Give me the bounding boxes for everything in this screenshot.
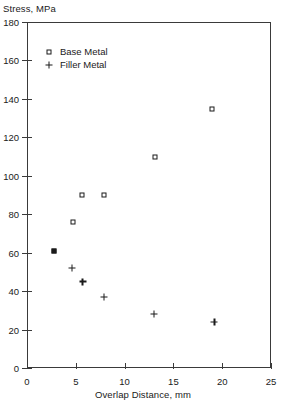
x-tick-label: 20 — [217, 376, 228, 387]
data-point-square — [210, 106, 215, 111]
y-tick-label: 20 — [8, 324, 19, 335]
x-tick-label: 25 — [266, 376, 277, 387]
legend-label: Filler Metal — [60, 58, 106, 71]
data-point-square — [152, 154, 157, 159]
data-point-plus — [79, 278, 86, 285]
legend-label: Base Metal — [60, 45, 108, 58]
x-tick-label: 0 — [24, 376, 29, 387]
y-tick-label: 60 — [8, 247, 19, 258]
y-tick-label: 160 — [3, 55, 19, 66]
x-tick-label: 15 — [168, 376, 179, 387]
y-tick-inner — [27, 22, 32, 23]
x-tick — [271, 363, 272, 369]
data-point-plus — [211, 318, 218, 325]
y-tick-label: 120 — [3, 132, 19, 143]
y-tick-inner — [27, 214, 32, 215]
y-tick-label: 0 — [14, 363, 19, 374]
legend-item-filler-metal: Filler Metal — [44, 58, 108, 71]
y-tick-label: 140 — [3, 93, 19, 104]
data-point-square — [70, 219, 75, 224]
y-tick-inner — [27, 330, 32, 331]
y-tick-inner — [27, 291, 32, 292]
y-tick-label: 100 — [3, 170, 19, 181]
data-point-square — [79, 193, 84, 198]
x-tick-label: 10 — [119, 376, 130, 387]
y-tick-inner — [27, 137, 32, 138]
chart-legend: Base Metal Filler Metal — [44, 45, 108, 71]
x-tick — [222, 363, 223, 369]
y-tick-inner — [27, 60, 32, 61]
y-tick-label: 180 — [3, 17, 19, 28]
data-point-square — [52, 248, 57, 253]
y-tick-label: 40 — [8, 286, 19, 297]
square-marker-icon — [44, 45, 60, 58]
x-tick — [173, 363, 174, 369]
y-tick-inner — [27, 99, 32, 100]
y-axis-title: Stress, MPa — [3, 3, 56, 14]
data-point-square — [102, 193, 107, 198]
x-tick — [27, 363, 28, 369]
y-tick-inner — [27, 253, 32, 254]
y-tick-inner — [27, 176, 32, 177]
x-tick-label: 5 — [73, 376, 78, 387]
legend-item-base-metal: Base Metal — [44, 45, 108, 58]
data-point-plus — [101, 293, 108, 300]
plot-area: 020406080100120140160180 0510152025 — [27, 22, 271, 368]
data-point-plus — [68, 265, 75, 272]
y-tick-label: 80 — [8, 209, 19, 220]
data-point-plus — [150, 311, 157, 318]
scatter-chart: Stress, MPa 020406080100120140160180 051… — [0, 0, 286, 406]
x-tick — [125, 363, 126, 369]
plus-marker-icon — [44, 58, 60, 71]
x-axis-title: Overlap Distance, mm — [0, 389, 286, 400]
x-tick — [76, 363, 77, 369]
